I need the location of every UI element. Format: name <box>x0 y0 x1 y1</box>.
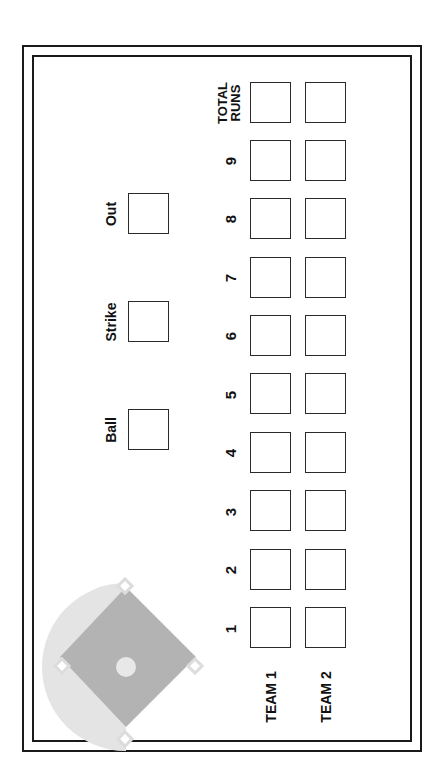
strike-count-box[interactable] <box>128 301 169 342</box>
strike-label: Strike <box>103 296 119 348</box>
team2-inning-1-box[interactable] <box>305 607 346 648</box>
team1-label: TEAM 1 <box>262 662 280 732</box>
inning-label-9: 9 <box>222 146 240 176</box>
baseball-diamond-icon <box>40 575 210 755</box>
team1-total-runs-box[interactable] <box>250 82 291 123</box>
team2-inning-7-box[interactable] <box>305 257 346 298</box>
inning-label-7: 7 <box>222 263 240 293</box>
ball-label: Ball <box>103 410 119 450</box>
team1-inning-6-box[interactable] <box>250 315 291 356</box>
inning-label-6: 6 <box>222 321 240 351</box>
team2-inning-5-box[interactable] <box>305 373 346 414</box>
team1-inning-3-box[interactable] <box>250 490 291 531</box>
inning-label-3: 3 <box>222 497 240 527</box>
out-count-box[interactable] <box>128 193 169 234</box>
inning-label-5: 5 <box>222 380 240 410</box>
team1-inning-1-box[interactable] <box>250 607 291 648</box>
team2-inning-6-box[interactable] <box>305 315 346 356</box>
team1-inning-9-box[interactable] <box>250 140 291 181</box>
team2-inning-3-box[interactable] <box>305 490 346 531</box>
team2-inning-9-box[interactable] <box>305 140 346 181</box>
team1-inning-2-box[interactable] <box>250 549 291 590</box>
team2-inning-2-box[interactable] <box>305 549 346 590</box>
inning-label-8: 8 <box>222 204 240 234</box>
team2-label: TEAM 2 <box>317 662 335 732</box>
team1-inning-5-box[interactable] <box>250 373 291 414</box>
team2-inning-4-box[interactable] <box>305 432 346 473</box>
team1-inning-7-box[interactable] <box>250 257 291 298</box>
inning-label-2: 2 <box>222 555 240 585</box>
out-label: Out <box>103 196 119 232</box>
ball-count-box[interactable] <box>128 409 169 450</box>
team2-inning-8-box[interactable] <box>305 198 346 239</box>
total-runs-line2: RUNS <box>229 78 242 128</box>
inning-label-4: 4 <box>222 438 240 468</box>
inning-label-1: 1 <box>222 614 240 644</box>
team1-inning-4-box[interactable] <box>250 432 291 473</box>
team1-inning-8-box[interactable] <box>250 198 291 239</box>
team2-total-runs-box[interactable] <box>305 82 346 123</box>
total-runs-label: TOTAL RUNS <box>216 78 246 128</box>
